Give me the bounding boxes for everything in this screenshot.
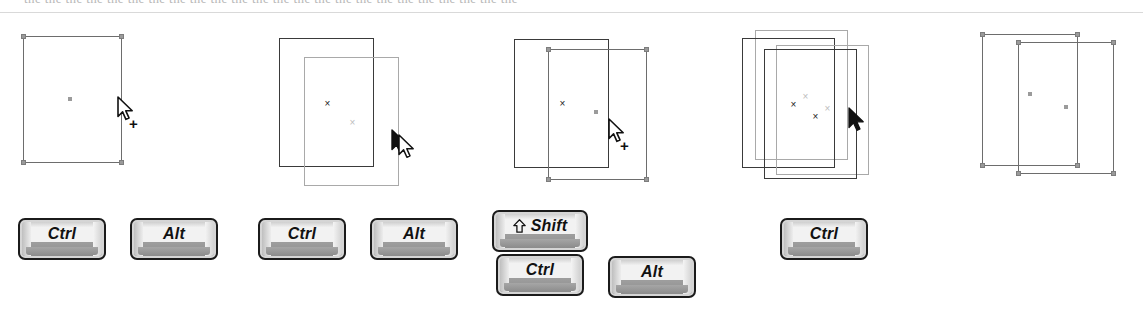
- keycap-face: Alt: [374, 222, 454, 256]
- keycap-text: Alt: [163, 225, 185, 243]
- keycap-ctrl[interactable]: Ctrl: [18, 218, 106, 260]
- resize-handle-tl[interactable]: [980, 32, 985, 37]
- keycap-shift[interactable]: Shift: [492, 210, 588, 252]
- keycap-face: Alt: [134, 222, 214, 256]
- keycap-text: Alt: [641, 263, 663, 281]
- resize-handle-bl[interactable]: [980, 163, 985, 168]
- keycap-face: Alt: [612, 260, 692, 294]
- keycap-face: Shift: [496, 214, 584, 248]
- keycap-label: Alt: [134, 222, 214, 246]
- keycap-shelf: [616, 285, 688, 293]
- shape-rectangle[interactable]: [548, 49, 647, 180]
- keycap-face: Ctrl: [784, 222, 864, 256]
- keycap-shelf: [504, 283, 576, 291]
- keycap-shelf: [500, 239, 580, 247]
- keycap-label: Ctrl: [784, 222, 864, 246]
- shape-center-cross-marker: ×: [348, 118, 357, 127]
- resize-handle-tr[interactable]: [1111, 40, 1116, 45]
- shift-up-arrow-icon: [513, 219, 526, 233]
- keycap-text: Shift: [531, 217, 568, 235]
- keycap-text: Alt: [403, 225, 425, 243]
- keycap-alt[interactable]: Alt: [608, 256, 696, 298]
- copy-plus-icon: +: [620, 138, 629, 153]
- keycap-face: Ctrl: [22, 222, 102, 256]
- copy-plus-icon: +: [129, 116, 138, 131]
- resize-handle-bl[interactable]: [1016, 171, 1021, 176]
- keycap-alt[interactable]: Alt: [130, 218, 218, 260]
- shape-center-dot-marker: [68, 97, 72, 101]
- resize-handle-tl[interactable]: [546, 47, 551, 52]
- resize-handle-br[interactable]: [119, 160, 124, 165]
- keycap-ctrl[interactable]: Ctrl: [780, 218, 868, 260]
- keycap-label: Shift: [496, 214, 584, 238]
- resize-handle-tr[interactable]: [1075, 32, 1080, 37]
- keycap-label: Alt: [374, 222, 454, 246]
- resize-handle-br[interactable]: [644, 177, 649, 182]
- resize-handle-bl[interactable]: [21, 160, 26, 165]
- cursor-arrow-plus: +: [117, 96, 143, 126]
- keycap-label: Ctrl: [262, 222, 342, 246]
- shape-center-cross-marker: ×: [811, 112, 820, 121]
- keycap-shelf: [788, 247, 860, 255]
- resize-handle-tl[interactable]: [1016, 40, 1021, 45]
- resize-handle-tl[interactable]: [21, 34, 26, 39]
- keycap-alt[interactable]: Alt: [370, 218, 458, 260]
- keycap-text: Ctrl: [526, 261, 554, 279]
- keycap-label: Ctrl: [22, 222, 102, 246]
- shape-center-dot-marker: [1064, 105, 1068, 109]
- keycap-shelf: [378, 247, 450, 255]
- keycap-face: Ctrl: [500, 258, 580, 292]
- keycap-ctrl[interactable]: Ctrl: [258, 218, 346, 260]
- resize-handle-tr[interactable]: [119, 34, 124, 39]
- resize-handle-br[interactable]: [1111, 171, 1116, 176]
- keycap-face: Ctrl: [262, 222, 342, 256]
- keycap-ctrl[interactable]: Ctrl: [496, 254, 584, 296]
- keycap-shelf: [26, 247, 98, 255]
- shape-rectangle[interactable]: [23, 36, 122, 163]
- keycap-text: Ctrl: [810, 225, 838, 243]
- cursor-arrow-plus: +: [608, 118, 634, 148]
- keycap-text: Ctrl: [48, 225, 76, 243]
- keycap-shelf: [266, 247, 338, 255]
- keycap-shelf: [138, 247, 210, 255]
- cursor-arrow-move: [391, 129, 425, 159]
- keycap-text: Ctrl: [288, 225, 316, 243]
- shape-center-dot-marker: [594, 110, 598, 114]
- cursor-arrow-solid: [848, 107, 874, 137]
- keycap-label: Ctrl: [500, 258, 580, 282]
- resize-handle-bl[interactable]: [546, 177, 551, 182]
- keycap-label: Alt: [612, 260, 692, 284]
- resize-handle-tr[interactable]: [644, 47, 649, 52]
